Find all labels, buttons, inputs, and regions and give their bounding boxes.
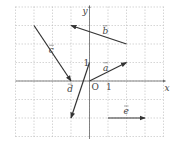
x-axis-label: x — [165, 83, 170, 93]
vector-label-d: d — [67, 84, 73, 94]
vector-d — [71, 63, 90, 119]
vector-label-e: e — [124, 106, 129, 116]
vector-label-b: b — [102, 26, 108, 36]
vector-diagram: xyO11abcde — [0, 0, 171, 149]
x-tick-label-1: 1 — [106, 82, 112, 92]
y-tick-label-1: 1 — [84, 58, 90, 68]
vector-label-c: c — [49, 45, 54, 55]
origin-label: O — [92, 82, 99, 92]
vector-b — [71, 26, 127, 45]
y-axis-label: y — [82, 6, 89, 16]
vector-label-a: a — [103, 63, 108, 73]
